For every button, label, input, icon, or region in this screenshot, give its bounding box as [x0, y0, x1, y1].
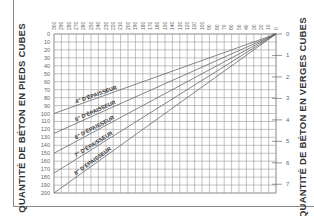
x-tick-label: 40 — [243, 24, 249, 30]
y-tick-label-left: 80 — [44, 95, 50, 101]
y-tick-label-right: 3 — [286, 95, 290, 101]
x-tick-label: 200 — [125, 21, 131, 30]
x-tick-label: 140 — [169, 21, 175, 30]
x-tick-label: 180 — [140, 21, 146, 30]
y-tick-label-left: 110 — [41, 118, 50, 124]
y-tick-label-left: 100 — [41, 111, 50, 117]
x-tick-label: 150 — [162, 21, 168, 30]
y-tick-label-right: 0 — [286, 31, 290, 37]
y-tick-label-left: 60 — [44, 79, 50, 85]
x-tick-label: 120 — [184, 21, 190, 30]
x-tick-label: 260 — [80, 21, 86, 30]
x-tick-label: 190 — [132, 21, 138, 30]
y-tick-label-left: 10 — [44, 39, 50, 45]
x-tick-label: 20 — [258, 24, 264, 30]
y-tick-label-left: 30 — [44, 55, 50, 61]
x-tick-label: 10 — [265, 24, 271, 30]
y-tick-label-right: 4 — [286, 117, 290, 123]
y-tick-label-right: 6 — [286, 160, 290, 166]
x-tick-label: 300 — [51, 21, 57, 30]
x-tick-label: 270 — [73, 21, 79, 30]
x-tick-label: 70 — [221, 24, 227, 30]
x-tick-label: 290 — [58, 21, 64, 30]
x-tick-label: 0 — [273, 27, 279, 30]
x-tick-label: 110 — [191, 22, 197, 30]
y-tick-label-right: 7 — [286, 181, 290, 187]
y-tick-label-left: 180 — [41, 174, 50, 180]
x-tick-label: 160 — [154, 21, 160, 30]
y-tick-label-left: 140 — [41, 142, 50, 148]
x-tick-label: 50 — [236, 24, 242, 30]
y-tick-label-left: 170 — [41, 166, 50, 172]
y-tick-label-left: 70 — [44, 87, 50, 93]
y-tick-label-right: 1 — [286, 52, 290, 58]
x-tick-label: 210 — [117, 21, 123, 30]
x-tick-label: 230 — [103, 21, 109, 30]
y-tick-label-left: 50 — [44, 71, 50, 77]
y-tick-label-left: 120 — [41, 126, 50, 132]
y-tick-label-left: 0 — [47, 31, 50, 37]
x-tick-label: 280 — [66, 21, 72, 30]
y-tick-label-left: 190 — [41, 182, 50, 188]
x-tick-label: 80 — [214, 24, 220, 30]
x-tick-label: 60 — [228, 24, 234, 30]
concrete-volume-chart: 3002902802702602502402302202102001901801… — [0, 0, 314, 216]
y-tick-label-left: 40 — [44, 63, 50, 69]
x-tick-label: 240 — [95, 21, 101, 30]
y-tick-label-left: 20 — [44, 47, 50, 53]
y-tick-label-right: 5 — [286, 138, 290, 144]
x-tick-label: 90 — [206, 24, 212, 30]
y-tick-label-left: 150 — [41, 150, 50, 156]
y-tick-label-left: 200 — [41, 190, 50, 196]
y-tick-label-left: 130 — [41, 134, 50, 140]
x-tick-label: 130 — [177, 21, 183, 30]
x-tick-label: 220 — [110, 21, 116, 30]
x-tick-label: 170 — [147, 21, 153, 30]
y-tick-label-left: 160 — [41, 158, 50, 164]
y-tick-label-left: 90 — [44, 103, 50, 109]
x-tick-label: 100 — [199, 21, 205, 30]
x-tick-label: 30 — [251, 24, 257, 30]
x-tick-label: 250 — [88, 21, 94, 30]
y-tick-label-right: 2 — [286, 74, 290, 80]
